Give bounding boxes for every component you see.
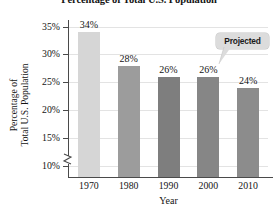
chart-title: Percentage of Total U.S. Population [0,0,278,7]
y-tick-mark [63,54,69,55]
bar-2010 [237,88,259,177]
y-axis-title-line-2: Total U.S. Population [19,63,30,146]
y-tick-mark [63,166,69,167]
bar-1980 [118,66,140,177]
x-tick-label-1970: 1970 [67,180,111,191]
bar-value-label-2000: 26% [188,64,228,75]
bar-value-label-2010: 24% [228,75,268,86]
y-tick-label: 25% [32,77,60,87]
bar-1990 [158,77,180,177]
y-tick-mark [63,82,69,83]
x-tick-label-1980: 1980 [107,180,151,191]
y-tick-label: 10% [32,161,60,171]
x-tick-label-2010: 2010 [226,180,270,191]
y-axis-title-line-1: Percentage of [8,63,19,146]
x-axis-title: Year [69,195,268,207]
bar-value-label-1980: 28% [109,53,149,64]
y-tick-mark [63,138,69,139]
bar-value-label-1990: 26% [149,64,189,75]
y-tick-label: 15% [32,133,60,143]
y-tick-label: 35% [32,22,60,32]
bar-chart-figure: Percentage of Total U.S. Population Perc… [0,0,278,220]
bar-2000 [197,77,219,177]
bar-1970 [78,32,100,177]
y-tick-label: 20% [32,105,60,115]
x-tick-label-1990: 1990 [147,180,191,191]
y-axis-line [68,20,69,156]
y-axis-title: Percentage of Total U.S. Population [2,42,36,168]
x-axis-line [68,177,273,178]
bar-value-label-1970: 34% [69,19,109,30]
y-tick-label: 30% [32,49,60,59]
y-tick-mark [63,110,69,111]
x-tick-label-2000: 2000 [186,180,230,191]
